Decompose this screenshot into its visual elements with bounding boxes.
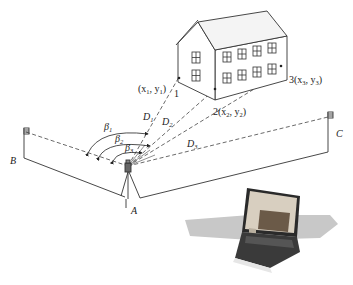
svg-text:D1: D1 [142, 111, 153, 123]
svg-text:β3: β3 [124, 142, 134, 154]
label-A: A [130, 205, 138, 216]
svg-text:β2: β2 [114, 133, 124, 145]
ground-lines [24, 152, 328, 198]
laptop-icon [233, 188, 300, 273]
label-B: B [10, 155, 16, 166]
label-C: C [336, 128, 343, 139]
svg-text:2(x2, y2): 2(x2, y2) [213, 106, 246, 118]
svg-text:(x1, y1): (x1, y1) [138, 83, 166, 95]
sight-lines [26, 72, 328, 166]
svg-text:β1: β1 [103, 121, 112, 133]
svg-text:D2: D2 [161, 116, 173, 128]
svg-text:3(x3, y3): 3(x3, y3) [289, 74, 322, 86]
svg-text:D3: D3 [186, 138, 198, 150]
labels: B C A (x1, y1) 1 2(x2, y2) 3(x3, y3) D1 … [10, 74, 343, 216]
flag-C-icon [328, 112, 333, 152]
label-point-1: 1 [174, 88, 179, 99]
survey-diagram: B C A (x1, y1) 1 2(x2, y2) 3(x3, y3) D1 … [0, 0, 353, 285]
total-station-icon [121, 160, 140, 208]
